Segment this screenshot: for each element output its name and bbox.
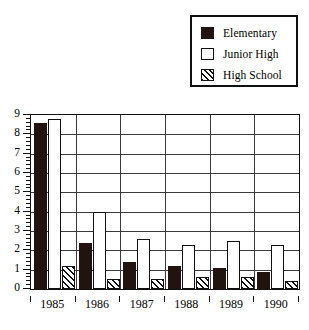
plot-area [30, 114, 300, 290]
x-axis-tick [30, 296, 31, 302]
y-axis-label: 9 [14, 108, 20, 120]
legend-swatch-junior-high-icon [201, 48, 214, 60]
legend-item-elementary: Elementary [201, 23, 296, 43]
bar-junior-high [227, 241, 240, 289]
x-axis-tick [164, 296, 165, 302]
x-axis-label: 1989 [219, 298, 243, 311]
y-axis-tick [23, 191, 30, 192]
y-axis-tick [23, 269, 30, 270]
y-axis-tick [23, 172, 30, 173]
bar-elementary [168, 266, 181, 289]
bar-elementary [213, 268, 226, 289]
y-axis-label: 6 [14, 166, 20, 178]
y-axis-tick [23, 133, 30, 134]
legend-label-junior-high: Junior High [223, 48, 279, 60]
x-axis-label: 1985 [40, 298, 64, 311]
y-axis: 0123456789 [0, 114, 30, 290]
y-axis-tick [23, 249, 30, 250]
x-axis: 198519861987198819891990 [30, 296, 300, 318]
y-axis-label: 8 [14, 128, 20, 140]
gridline-vertical [254, 115, 255, 289]
bar-high-school [62, 266, 75, 289]
y-axis-tick [23, 114, 30, 115]
legend-swatch-elementary-icon [201, 27, 214, 39]
y-axis-label: 4 [14, 205, 20, 217]
y-axis-tick [23, 230, 30, 231]
y-axis-label: 0 [14, 282, 20, 294]
bar-junior-high [93, 212, 106, 289]
x-axis-tick [75, 296, 76, 302]
y-axis-label: 2 [14, 244, 20, 256]
gridline-vertical [120, 115, 121, 289]
y-axis-label: 7 [14, 147, 20, 159]
bar-junior-high [48, 119, 61, 289]
x-axis-tick [298, 296, 299, 302]
gridline-vertical [210, 115, 211, 289]
legend-swatch-high-school-icon [201, 69, 214, 81]
bar-elementary [79, 243, 92, 289]
legend-label-high-school: High School [223, 69, 282, 81]
legend-item-junior-high: Junior High [201, 44, 296, 64]
bar-junior-high [271, 245, 284, 289]
bar-high-school [196, 277, 209, 289]
bar-elementary [34, 123, 47, 289]
y-axis-label: 3 [14, 224, 20, 236]
x-axis-label: 1988 [174, 298, 198, 311]
chart-legend: Elementary Junior High High School [190, 15, 298, 87]
x-axis-tick [209, 296, 210, 302]
bar-high-school [107, 279, 120, 289]
bar-junior-high [182, 245, 195, 289]
bar-junior-high [137, 239, 150, 289]
gridline-vertical [165, 115, 166, 289]
y-axis-tick [23, 288, 30, 289]
x-axis-label: 1986 [85, 298, 109, 311]
y-axis-label: 5 [14, 186, 20, 198]
gridline-vertical [76, 115, 77, 289]
x-axis-tick [253, 296, 254, 302]
x-axis-tick [119, 296, 120, 302]
bar-chart: 0123456789 198519861987198819891990 [0, 100, 309, 330]
x-axis-label: 1987 [130, 298, 154, 311]
y-axis-tick [23, 153, 30, 154]
y-axis-label: 1 [14, 263, 20, 275]
bar-elementary [257, 272, 270, 289]
legend-label-elementary: Elementary [223, 27, 277, 39]
bar-high-school [151, 279, 164, 289]
bar-high-school [285, 281, 298, 289]
legend-item-high-school: High School [201, 65, 296, 85]
y-axis-tick [23, 211, 30, 212]
x-axis-label: 1990 [264, 298, 288, 311]
bar-high-school [241, 277, 254, 289]
bar-elementary [123, 262, 136, 289]
